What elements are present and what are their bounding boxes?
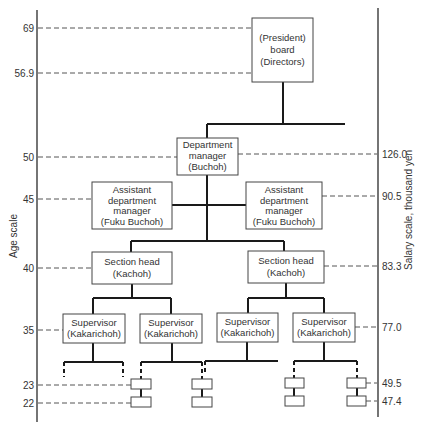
node-president: (President) board (Directors) xyxy=(252,18,313,82)
staff-box xyxy=(347,378,366,388)
svg-text:Supervisor: Supervisor xyxy=(301,316,346,327)
svg-text:Assistant: Assistant xyxy=(265,184,304,195)
node-department-manager: Department manager (Buchoh) xyxy=(177,138,238,175)
node-supervisor-3: Supervisor (Kakarichoh) xyxy=(217,313,278,342)
org-connectors xyxy=(64,82,357,397)
age-axis-label: Age scale xyxy=(8,214,19,258)
svg-text:Supervisor: Supervisor xyxy=(71,317,116,328)
svg-text:Supervisor: Supervisor xyxy=(148,317,193,328)
svg-text:22: 22 xyxy=(23,398,35,409)
staff-boxes xyxy=(131,378,366,407)
staff-box xyxy=(192,379,212,389)
svg-text:23: 23 xyxy=(23,380,35,391)
svg-text:(Kakarichoh): (Kakarichoh) xyxy=(297,327,351,338)
node-supervisor-4: Supervisor (Kakarichoh) xyxy=(293,313,355,342)
salary-axis-label: Salary scale, thousand yen xyxy=(403,150,414,270)
svg-text:56.9: 56.9 xyxy=(15,68,35,79)
svg-text:47.4: 47.4 xyxy=(382,396,402,407)
svg-text:(Kakarichoh): (Kakarichoh) xyxy=(221,327,275,338)
svg-text:49.5: 49.5 xyxy=(382,378,402,389)
svg-text:40: 40 xyxy=(23,263,35,274)
svg-text:Section head: Section head xyxy=(104,256,159,267)
node-section-head-left: Section head (Kachoh) xyxy=(92,252,172,284)
svg-text:Department: Department xyxy=(183,139,233,150)
svg-text:50: 50 xyxy=(23,152,35,163)
staff-box xyxy=(285,396,304,406)
svg-text:77.0: 77.0 xyxy=(382,322,402,333)
node-supervisor-2: Supervisor (Kakarichoh) xyxy=(140,314,202,343)
svg-text:(Buchoh): (Buchoh) xyxy=(188,161,227,172)
node-assistant-department-manager-left: Assistant department manager (Fuku Bucho… xyxy=(92,182,172,229)
svg-text:manager: manager xyxy=(189,150,227,161)
svg-text:Supervisor: Supervisor xyxy=(225,316,270,327)
svg-text:(Kachoh): (Kachoh) xyxy=(113,268,152,279)
staff-box xyxy=(192,397,212,407)
org-salary-age-diagram: Age scale Salary scale, thousand yen 69 … xyxy=(0,0,427,430)
svg-text:Section head: Section head xyxy=(258,255,313,266)
svg-text:(Kakarichoh): (Kakarichoh) xyxy=(144,328,198,339)
svg-text:manager: manager xyxy=(113,205,151,216)
svg-text:(Directors): (Directors) xyxy=(260,56,304,67)
svg-text:manager: manager xyxy=(265,205,303,216)
svg-text:45: 45 xyxy=(23,194,35,205)
staff-box xyxy=(285,378,304,388)
svg-text:90.5: 90.5 xyxy=(382,191,402,202)
svg-text:35: 35 xyxy=(23,325,35,336)
staff-box xyxy=(347,396,366,406)
svg-text:83.3: 83.3 xyxy=(382,261,402,272)
svg-text:(Kakarichoh): (Kakarichoh) xyxy=(67,328,121,339)
svg-text:board: board xyxy=(270,44,294,55)
svg-text:(Kachoh): (Kachoh) xyxy=(267,267,306,278)
staff-box xyxy=(131,397,151,407)
svg-text:(President): (President) xyxy=(259,32,305,43)
node-supervisor-1: Supervisor (Kakarichoh) xyxy=(63,314,125,343)
svg-text:Assistant: Assistant xyxy=(113,184,152,195)
svg-text:(Fuku Buchoh): (Fuku Buchoh) xyxy=(101,216,163,227)
node-assistant-department-manager-right: Assistant department manager (Fuku Bucho… xyxy=(246,182,322,229)
staff-box xyxy=(131,379,151,389)
svg-text:(Fuku Buchoh): (Fuku Buchoh) xyxy=(253,216,315,227)
svg-text:126.0: 126.0 xyxy=(382,149,407,160)
svg-text:69: 69 xyxy=(23,23,35,34)
node-section-head-right: Section head (Kachoh) xyxy=(248,251,324,283)
